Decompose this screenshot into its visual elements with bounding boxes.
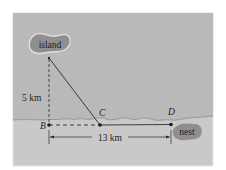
point-d — [169, 123, 173, 127]
island-label: island — [39, 40, 62, 50]
point-c — [98, 123, 102, 127]
point-b — [47, 123, 51, 127]
horizontal-distance-label: 13 km — [98, 133, 123, 143]
nest-label: nest — [179, 127, 195, 137]
water-region — [13, 13, 213, 120]
island-nest-diagram: island nest B C D 5 km 13 km — [0, 0, 226, 170]
point-b-label: B — [40, 121, 46, 131]
vertical-distance-label: 5 km — [22, 93, 42, 103]
point-d-label: D — [167, 107, 175, 117]
point-c-label: C — [99, 108, 106, 118]
c-to-d-line — [100, 125, 171, 126]
